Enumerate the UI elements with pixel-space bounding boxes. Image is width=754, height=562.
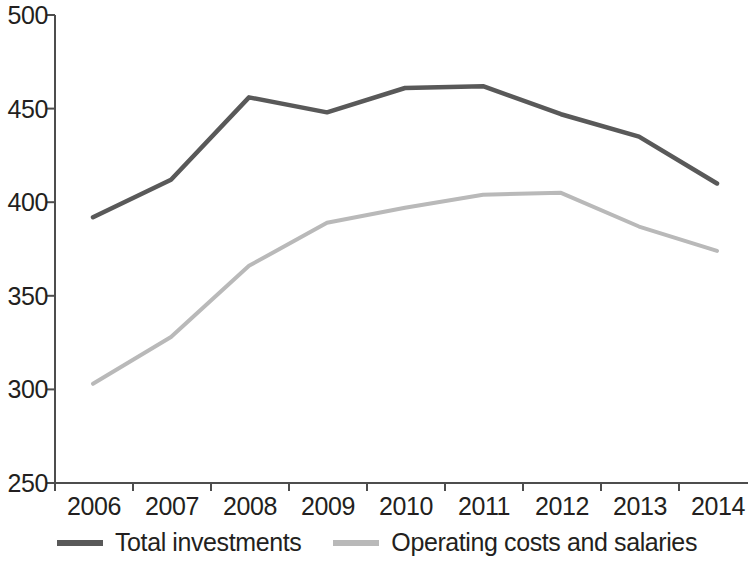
line-chart: 250300350400450500 200620072008200920102…	[0, 0, 754, 562]
x-axis-tick-label: 2007	[132, 492, 212, 521]
y-axis-tick-label: 500	[0, 1, 48, 30]
legend-item[interactable]: Total investments	[57, 528, 301, 557]
x-axis-tick-label: 2014	[678, 492, 754, 521]
x-axis-tick-label: 2011	[444, 492, 524, 521]
chart-legend: Total investmentsOperating costs and sal…	[0, 528, 754, 557]
legend-label: Total investments	[115, 528, 301, 557]
x-axis-tick-label: 2013	[600, 492, 680, 521]
series-line	[93, 86, 717, 217]
y-axis-tick-label: 450	[0, 94, 48, 123]
axes	[47, 15, 748, 491]
legend-item[interactable]: Operating costs and salaries	[333, 528, 697, 557]
series-line	[93, 193, 717, 384]
y-axis-tick-label: 300	[0, 375, 48, 404]
y-axis-tick-label: 400	[0, 188, 48, 217]
x-axis-tick-label: 2008	[210, 492, 290, 521]
legend-swatch	[333, 540, 379, 546]
y-axis-tick-label: 250	[0, 469, 48, 498]
x-axis-tick-label: 2012	[522, 492, 602, 521]
data-series	[93, 86, 717, 384]
plot-area	[0, 0, 754, 562]
x-axis-tick-label: 2009	[288, 492, 368, 521]
x-axis-tick-label: 2010	[366, 492, 446, 521]
x-axis-tick-label: 2006	[54, 492, 134, 521]
legend-swatch	[57, 540, 103, 546]
y-axis-tick-label: 350	[0, 281, 48, 310]
legend-label: Operating costs and salaries	[391, 528, 697, 557]
